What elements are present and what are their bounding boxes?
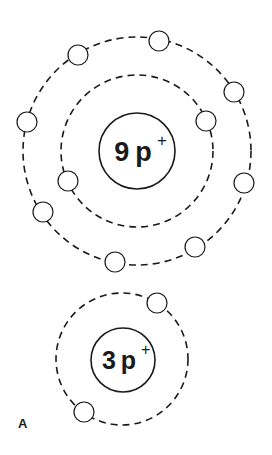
electron [105,252,125,272]
atom-fluorine: 9p + [17,31,254,272]
electron [224,82,244,102]
figure-label: A [18,416,28,431]
charge-superscript: + [157,131,167,150]
electron [17,112,37,132]
electron [196,111,216,131]
electron [33,202,53,222]
electron [74,402,94,422]
electron [147,293,167,313]
electron [58,171,78,191]
atom-lithium: 3p + [56,293,188,425]
charge-superscript: + [141,341,150,358]
electron [68,45,88,65]
electron [185,237,205,257]
electron [234,173,254,193]
atom-diagram: 9p + 3p + A [0,0,272,455]
electron [149,31,169,51]
